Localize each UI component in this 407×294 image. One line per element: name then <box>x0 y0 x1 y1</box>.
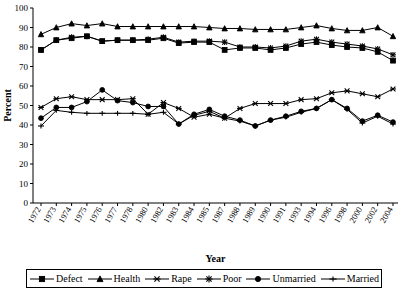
x-tick-label: 1990 <box>255 205 272 225</box>
y-tick-label: 20 <box>19 159 29 169</box>
y-axis-ticks: 0102030405060708090100 <box>15 3 34 208</box>
cross-marker-icon <box>144 273 170 285</box>
x-tick-label: 1977 <box>102 205 119 225</box>
y-tick-label: 80 <box>19 42 29 52</box>
x-tick-label: 1989 <box>240 205 257 225</box>
circle-marker-icon <box>245 273 271 285</box>
square-marker-icon <box>29 273 55 285</box>
series-rape <box>38 87 396 121</box>
legend-item-health[interactable]: Health <box>86 273 142 285</box>
y-tick-label: 50 <box>19 101 29 111</box>
y-tick-label: 10 <box>19 179 29 189</box>
legend-item-poor[interactable]: Poor <box>195 273 243 285</box>
x-tick-label: 1978 <box>117 205 134 225</box>
triangle-marker-icon <box>87 273 113 285</box>
x-tick-label: 1972 <box>26 205 43 225</box>
line-chart: 0102030405060708090100Percent19721973197… <box>0 0 407 294</box>
legend-label: Health <box>114 273 141 284</box>
x-axis-ticks: 1972197319741975197619771978198019821983… <box>26 203 396 225</box>
legend-item-defect[interactable]: Defect <box>28 273 84 285</box>
legend-item-married[interactable]: Married <box>319 273 380 285</box>
x-tick-label: 1982 <box>148 205 165 225</box>
legend-label: Defect <box>56 273 83 284</box>
y-tick-label: 70 <box>19 62 29 72</box>
y-tick-label: 90 <box>19 23 29 33</box>
x-tick-label: 1980 <box>133 205 150 225</box>
x-tick-label: 1988 <box>225 205 242 225</box>
x-tick-label: 1998 <box>332 205 349 225</box>
legend-label: Married <box>347 273 379 284</box>
plus-marker-icon <box>320 273 346 285</box>
x-tick-label: 1991 <box>270 205 287 225</box>
series-health <box>38 21 395 39</box>
chart-plot-area: 0102030405060708090100Percent19721973197… <box>0 0 407 294</box>
series-unmarried <box>39 88 396 129</box>
chart-legend: DefectHealthRapePoorUnmarriedMarried <box>26 269 382 288</box>
x-tick-label: 1996 <box>316 205 333 225</box>
legend-item-rape[interactable]: Rape <box>143 273 193 285</box>
legend-item-unmarried[interactable]: Unmarried <box>244 273 316 285</box>
x-tick-label: 1975 <box>71 205 88 225</box>
x-tick-label: 2002 <box>362 205 379 225</box>
y-axis-title: Percent <box>2 89 13 122</box>
x-tick-label: 1993 <box>286 205 303 225</box>
x-tick-label: 1994 <box>301 204 319 224</box>
legend-label: Unmarried <box>272 273 315 284</box>
x-tick-label: 1983 <box>163 205 180 225</box>
legend-label: Rape <box>171 273 192 284</box>
y-tick-label: 30 <box>19 140 29 150</box>
legend-label: Poor <box>223 273 242 284</box>
x-tick-label: 1974 <box>56 204 74 224</box>
x-tick-label: 2004 <box>378 204 396 224</box>
y-tick-label: 40 <box>19 120 29 130</box>
x-tick-label: 1987 <box>209 205 226 225</box>
x-axis-title: Year <box>206 253 227 264</box>
x-tick-label: 1973 <box>41 205 58 225</box>
y-tick-label: 0 <box>24 198 29 208</box>
x-tick-label: 1984 <box>179 204 197 224</box>
star-marker-icon <box>196 273 222 285</box>
y-tick-label: 100 <box>15 3 29 13</box>
x-tick-label: 1976 <box>87 205 104 225</box>
x-tick-label: 2000 <box>347 205 364 225</box>
y-tick-label: 60 <box>19 81 29 91</box>
x-tick-label: 1985 <box>194 205 211 225</box>
